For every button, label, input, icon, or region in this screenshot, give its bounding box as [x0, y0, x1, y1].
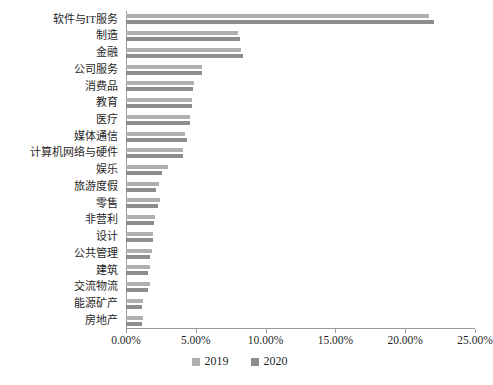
category-label: 计算机网络与硬件: [0, 145, 122, 162]
x-tick: [196, 329, 197, 333]
bar-2019: [126, 265, 150, 269]
bar-2019: [126, 65, 202, 69]
x-tick: [126, 329, 127, 333]
x-tick-label: 25.00%: [457, 334, 492, 346]
x-tick: [475, 329, 476, 333]
category-label: 消费品: [0, 78, 122, 95]
bar-2019: [126, 115, 190, 119]
bar-2019: [126, 14, 429, 18]
bar-2020: [126, 221, 154, 225]
bar-2019: [126, 299, 143, 303]
bar-2019: [126, 81, 194, 85]
category-label: 软件与IT服务: [0, 11, 122, 28]
category-label: 能源矿产: [0, 295, 122, 312]
category-label: 公司服务: [0, 61, 122, 78]
bar-group: [126, 111, 475, 128]
bar-2019: [126, 182, 159, 186]
bar-2020: [126, 104, 192, 108]
bar-2019: [126, 282, 150, 286]
bar-2020: [126, 188, 156, 192]
category-label: 房地产: [0, 312, 122, 329]
legend-label: 2020: [264, 354, 288, 369]
category-label: 设计: [0, 229, 122, 246]
bar-rows: [126, 11, 475, 329]
bar-2019: [126, 132, 185, 136]
x-axis-tick-labels: 0.00%5.00%10.00%15.00%20.00%25.00%: [0, 334, 479, 350]
bar-group: [126, 279, 475, 296]
bar-group: [126, 245, 475, 262]
bar-group: [126, 212, 475, 229]
category-label: 制造: [0, 28, 122, 45]
bar-2019: [126, 232, 153, 236]
category-label: 公共管理: [0, 245, 122, 262]
bar-group: [126, 229, 475, 246]
legend-item[interactable]: 2019: [192, 354, 229, 369]
bar-2020: [126, 171, 162, 175]
bar-2020: [126, 271, 148, 275]
bar-2020: [126, 305, 142, 309]
bar-2019: [126, 148, 183, 152]
legend-swatch-2019: [192, 358, 200, 366]
category-label: 非营利: [0, 212, 122, 229]
bar-2020: [126, 138, 187, 142]
category-label: 旅游度假: [0, 178, 122, 195]
bar-2020: [126, 288, 148, 292]
x-tick-label: 10.00%: [248, 334, 283, 346]
chart-legend: 20192020: [0, 354, 479, 369]
bar-2020: [126, 154, 183, 158]
bar-2020: [126, 71, 202, 75]
bar-2020: [126, 238, 153, 242]
bar-group: [126, 128, 475, 145]
bar-group: [126, 61, 475, 78]
bar-group: [126, 11, 475, 28]
category-label: 娱乐: [0, 162, 122, 179]
category-axis-labels: 软件与IT服务制造金融公司服务消费品教育医疗媒体通信计算机网络与硬件娱乐旅游度假…: [0, 11, 122, 329]
bar-2019: [126, 215, 155, 219]
x-tick: [405, 329, 406, 333]
bar-group: [126, 262, 475, 279]
x-tick-label: 5.00%: [181, 334, 211, 346]
category-label: 医疗: [0, 111, 122, 128]
bar-group: [126, 178, 475, 195]
bar-group: [126, 44, 475, 61]
bar-group: [126, 95, 475, 112]
category-label: 零售: [0, 195, 122, 212]
bar-2020: [126, 37, 240, 41]
bar-2019: [126, 198, 160, 202]
bar-2020: [126, 54, 243, 58]
legend-item[interactable]: 2020: [251, 354, 288, 369]
bar-group: [126, 162, 475, 179]
bar-group: [126, 312, 475, 329]
bar-2019: [126, 31, 238, 35]
category-label: 教育: [0, 95, 122, 112]
bar-2020: [126, 87, 193, 91]
bar-2019: [126, 98, 192, 102]
x-tick-label: 0.00%: [111, 334, 141, 346]
bar-group: [126, 295, 475, 312]
bar-2019: [126, 48, 241, 52]
legend-swatch-2020: [251, 358, 259, 366]
category-label: 建筑: [0, 262, 122, 279]
bar-2019: [126, 249, 152, 253]
bar-group: [126, 145, 475, 162]
category-label: 金融: [0, 44, 122, 61]
category-label: 媒体通信: [0, 128, 122, 145]
bar-2019: [126, 316, 143, 320]
x-tick: [266, 329, 267, 333]
bar-2020: [126, 204, 158, 208]
bar-2020: [126, 121, 190, 125]
category-label: 交流物流: [0, 279, 122, 296]
bar-group: [126, 28, 475, 45]
bar-group: [126, 78, 475, 95]
x-tick: [335, 329, 336, 333]
legend-label: 2019: [205, 354, 229, 369]
bar-2020: [126, 255, 150, 259]
plot-area: [126, 11, 475, 329]
bar-2019: [126, 165, 168, 169]
bar-2020: [126, 322, 142, 326]
x-tick-label: 15.00%: [318, 334, 353, 346]
bar-group: [126, 195, 475, 212]
bar-2020: [126, 20, 434, 24]
x-tick-label: 20.00%: [387, 334, 422, 346]
